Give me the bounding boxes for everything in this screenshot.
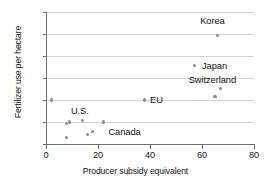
data-point (65, 136, 68, 139)
x-tick-label: 0 (43, 150, 48, 160)
y-tick-mark (43, 100, 46, 101)
gridline (47, 56, 254, 57)
gridline (47, 34, 254, 35)
x-tick-mark (98, 145, 99, 149)
data-point (143, 98, 146, 101)
point-label: U.S. (71, 105, 89, 116)
point-label: EU (150, 94, 163, 105)
data-point (86, 133, 89, 136)
x-tick-mark (150, 145, 151, 149)
x-tick-label: 60 (197, 150, 207, 160)
x-tick-label: 20 (93, 150, 103, 160)
point-label: Canada (108, 126, 140, 137)
x-axis-title: Producer subsidy equivalent (0, 166, 271, 176)
data-point (219, 87, 222, 90)
gridline (47, 12, 254, 13)
gridline (47, 122, 254, 123)
x-tick-mark (46, 145, 47, 149)
data-point (216, 34, 219, 37)
scatter-chart-figure: Fertilizer use per hectare Producer subs… (0, 0, 271, 185)
x-tick-label: 80 (249, 150, 259, 160)
point-label: Switzerland (189, 74, 236, 85)
data-point (68, 120, 71, 123)
y-tick-mark (43, 122, 46, 123)
data-point (91, 130, 94, 133)
y-tick-mark (43, 78, 46, 79)
data-point (102, 120, 105, 123)
x-tick-mark (202, 145, 203, 149)
plot-area: 0100200300400500600 020406080 KoreaJapan… (46, 12, 254, 144)
y-tick-mark (43, 56, 46, 57)
point-label: Japan (202, 60, 227, 71)
y-tick-mark (43, 34, 46, 35)
y-axis-title: Fertilizer use per hectare (13, 7, 23, 137)
x-tick-mark (254, 145, 255, 149)
data-point (193, 64, 196, 67)
data-point (50, 98, 53, 101)
point-label: Korea (200, 15, 225, 26)
x-tick-label: 40 (145, 150, 155, 160)
data-point (213, 95, 216, 98)
y-tick-mark (43, 12, 46, 13)
